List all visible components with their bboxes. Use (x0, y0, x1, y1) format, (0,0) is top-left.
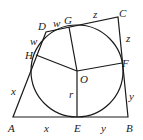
segment-label-AE: x (43, 122, 49, 134)
radius-OF (77, 63, 122, 71)
segment-label-DH: w (30, 35, 38, 47)
radius-OH (36, 55, 77, 71)
label-A: A (7, 122, 15, 134)
radius-OG (69, 27, 77, 71)
label-B: B (126, 122, 133, 134)
label-C: C (119, 7, 127, 19)
label-O: O (80, 73, 88, 85)
tangential-quadrilateral-diagram: A B C D E F G H O x x y y z z w w r (0, 0, 143, 140)
segment-label-EB: y (100, 122, 106, 134)
segment-label-CG: z (92, 8, 98, 20)
label-F: F (121, 57, 129, 69)
label-E: E (73, 122, 81, 134)
label-H: H (24, 49, 34, 61)
segment-label-OE: r (69, 88, 74, 100)
segment-label-AH: x (10, 85, 16, 97)
segment-label-GD: w (53, 17, 61, 29)
label-D: D (37, 20, 46, 32)
segment-label-FC: z (125, 32, 131, 44)
label-G: G (64, 14, 72, 26)
segment-label-BF: y (128, 90, 134, 102)
